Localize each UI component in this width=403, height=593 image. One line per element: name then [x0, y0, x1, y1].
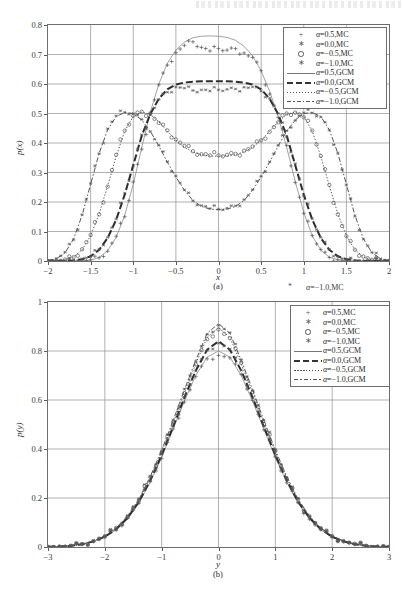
legend-b[interactable]: +α=0.5,MC∗α=0.0,MCα=−0.5,MC∗α=−1.0,MCα=0… [290, 305, 390, 387]
star-glyph: ∗ [298, 59, 305, 67]
x-tick-label: −0.5 [168, 266, 183, 276]
x-tick-label: 1 [302, 266, 306, 276]
x-tick-label: −1.5 [83, 266, 98, 276]
dotted-line-icon [293, 365, 323, 374]
legend-row[interactable]: α=−0.5,MC [293, 327, 386, 337]
legend-label: α=0.0,MC [323, 318, 355, 327]
legend-label: α=−1.0,GCM [316, 97, 358, 106]
y-tick-mark [44, 25, 47, 26]
y-tick-label: 0.5 [15, 109, 42, 119]
legend-label: α=−1.0,GCM [323, 375, 365, 384]
legend-a[interactable]: +α=0.5,MC∗α=0.0,MCα=−0.5,MC∗α=−1.0,MCα=0… [283, 27, 387, 109]
stray-asterisk-icon: * [288, 282, 292, 291]
y-tick-label: 0 [15, 256, 42, 266]
dashdot-line-swatch [287, 101, 315, 102]
legend-row[interactable]: α=−1.0,GCM [286, 97, 383, 107]
legend-row[interactable]: α=−0.5,GCM [286, 87, 383, 97]
x-tick-mark [275, 548, 276, 551]
circle-marker-icon [293, 327, 323, 336]
y-tick-mark [44, 143, 47, 144]
solid-line-swatch [287, 73, 315, 74]
x-tick-mark [219, 548, 220, 551]
x-tick-label: 2 [330, 552, 334, 562]
x-tick-mark [332, 548, 333, 551]
y-tick-label: 0.6 [15, 395, 42, 405]
y-tick-mark [44, 302, 47, 303]
legend-label: α=0.5,GCM [323, 346, 361, 355]
y-tick-label: 0.2 [15, 493, 42, 503]
y-tick-label: 0.4 [15, 444, 42, 454]
x-tick-label: −3 [43, 552, 52, 562]
y-tick-label: 0.1 [15, 227, 42, 237]
y-tick-label: 0.2 [15, 197, 42, 207]
y-axis-title-b: p(y) [14, 423, 24, 438]
legend-label: α=0.5,GCM [316, 68, 354, 77]
legend-row[interactable]: α=0.5,GCM [286, 68, 383, 78]
y-tick-mark [44, 261, 47, 262]
x-tick-mark [91, 262, 92, 265]
dashed-line-icon [286, 78, 316, 87]
dashdot-line-icon [286, 97, 316, 106]
solid-line-swatch [294, 351, 322, 352]
plus-glyph: + [306, 309, 311, 317]
y-tick-label: 0 [15, 542, 42, 552]
y-tick-mark [44, 498, 47, 499]
y-tick-label: 0.6 [15, 79, 42, 89]
legend-row[interactable]: ∗α=−1.0,MC [286, 59, 383, 69]
legend-row[interactable]: ∗α=0.0,MC [286, 40, 383, 50]
asterisk-glyph: ∗ [305, 318, 312, 326]
dashed-line-icon [293, 356, 323, 365]
y-tick-mark [44, 202, 47, 203]
x-tick-label: −2 [100, 552, 109, 562]
y-tick-label: 0.8 [15, 20, 42, 30]
legend-label: α=0.5,MC [316, 30, 348, 39]
legend-row[interactable]: α=−1.0,GCM [293, 375, 386, 385]
asterisk-marker-icon: ∗ [286, 40, 316, 49]
x-tick-mark [133, 262, 134, 265]
y-tick-label: 1 [15, 297, 42, 307]
dashed-line-swatch [294, 360, 322, 362]
y-tick-mark [44, 55, 47, 56]
asterisk-marker-icon: ∗ [293, 318, 323, 327]
y-tick-mark [44, 449, 47, 450]
plus-marker-icon: + [286, 30, 316, 39]
dashed-line-swatch [287, 82, 315, 84]
y-tick-label: 0.7 [15, 50, 42, 60]
legend-label: α=0.0,MC [316, 40, 348, 49]
legend-row[interactable]: α=−0.5,MC [286, 49, 383, 59]
y-tick-label: 0.3 [15, 168, 42, 178]
star-glyph: ∗ [305, 337, 312, 345]
legend-row[interactable]: α=−0.5,GCM [293, 365, 386, 375]
legend-row[interactable]: +α=0.5,MC [286, 30, 383, 40]
y-tick-mark [44, 84, 47, 85]
plus-marker-icon: + [293, 308, 323, 317]
dotted-line-icon [286, 87, 316, 96]
x-tick-mark [162, 548, 163, 551]
chart-panel-b: −3−2−1012300.20.40.60.81 y (b) p(y) +α=0… [0, 292, 403, 593]
legend-row[interactable]: ∗α=0.0,MC [293, 318, 386, 328]
x-tick-label: 1.5 [341, 266, 352, 276]
solid-line-icon [286, 68, 316, 77]
x-tick-mark [389, 262, 390, 265]
legend-row[interactable]: +α=0.5,MC [293, 308, 386, 318]
circle-glyph [298, 51, 304, 57]
legend-label: α=−0.5,GCM [316, 87, 358, 96]
legend-row[interactable]: ∗α=−1.0,MC [293, 337, 386, 347]
x-tick-label: 3 [387, 552, 391, 562]
x-tick-mark [261, 262, 262, 265]
x-tick-mark [48, 262, 49, 265]
legend-label: α=0.5,MC [323, 308, 355, 317]
legend-label: α=0.0,GCM [323, 356, 361, 365]
star-marker-icon: ∗ [293, 337, 323, 346]
legend-label: α=−1.0,MC [316, 59, 353, 68]
legend-label: α=−0.5,MC [323, 327, 360, 336]
circle-glyph [305, 329, 311, 335]
legend-row[interactable]: α=0.0,GCM [286, 78, 383, 88]
x-tick-label: 1 [273, 552, 277, 562]
legend-row[interactable]: α=0.5,GCM [293, 346, 386, 356]
legend-row[interactable]: α=0.0,GCM [293, 356, 386, 366]
x-tick-mark [389, 548, 390, 551]
legend-label: α=0.0,GCM [316, 78, 354, 87]
circle-marker-icon [286, 49, 316, 58]
x-tick-mark [176, 262, 177, 265]
